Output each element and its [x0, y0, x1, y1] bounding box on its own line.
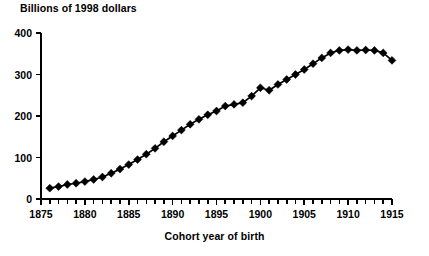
y-axis-tick-label: 400: [14, 27, 32, 39]
data-point-marker: [204, 111, 212, 119]
data-point-marker: [55, 183, 63, 191]
data-point-marker: [46, 184, 54, 192]
y-axis: 0100200300400: [14, 27, 41, 205]
data-point-marker: [63, 181, 71, 189]
x-axis-tick-label: 1880: [73, 208, 97, 220]
x-axis-tick-label: 1900: [249, 208, 273, 220]
data-point-marker: [371, 47, 379, 55]
data-point-marker: [213, 107, 221, 115]
data-point-marker: [116, 165, 124, 173]
data-point-marker: [125, 161, 133, 169]
data-point-marker: [353, 47, 361, 55]
data-point-marker: [195, 115, 203, 123]
x-axis-tick-label: 1890: [161, 208, 185, 220]
y-axis-tick-label: 200: [14, 110, 32, 122]
data-point-marker: [335, 47, 343, 55]
data-point-marker: [81, 178, 89, 186]
x-axis-tick-label: 1915: [380, 208, 404, 220]
data-point-marker: [99, 173, 107, 181]
x-axis-tick-label: 1905: [293, 208, 317, 220]
data-point-marker: [327, 49, 335, 57]
y-axis-tick-label: 0: [26, 193, 32, 205]
data-point-marker: [134, 156, 142, 164]
data-point-marker: [72, 179, 80, 187]
data-point-marker: [107, 169, 115, 177]
x-axis-tick-label: 1885: [117, 208, 141, 220]
data-point-marker: [221, 102, 229, 110]
data-point-markers: [46, 46, 396, 192]
data-point-marker: [292, 71, 300, 79]
data-point-marker: [362, 46, 370, 54]
data-series-line: [50, 50, 392, 189]
data-point-marker: [90, 176, 98, 184]
y-axis-tick-label: 100: [14, 152, 32, 164]
data-point-marker: [283, 76, 291, 84]
x-axis-tick-label: 1875: [29, 208, 53, 220]
y-axis-tick-label: 300: [14, 69, 32, 81]
data-point-marker: [344, 46, 352, 54]
x-axis: 187518801885189018951900190519101915: [29, 199, 404, 220]
x-axis-tick-label: 1910: [336, 208, 360, 220]
x-axis-title: Cohort year of birth: [0, 230, 429, 242]
chart-plot-area: 0100200300400 18751880188518901895190019…: [0, 0, 429, 256]
x-axis-tick-label: 1895: [205, 208, 229, 220]
data-point-marker: [230, 100, 238, 108]
chart-container: Billions of 1998 dollars 0100200300400 1…: [0, 0, 429, 256]
